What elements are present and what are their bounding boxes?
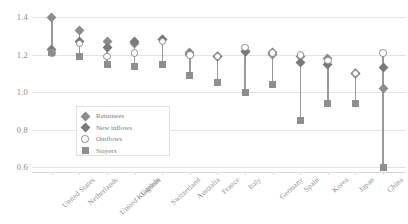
data-point-open-circle [214, 53, 222, 61]
legend-label: Returnees [96, 112, 124, 120]
x-tick-mark [273, 172, 274, 175]
data-point-square [269, 81, 276, 88]
x-label-canada: Canada [139, 176, 162, 197]
x-tick-mark [217, 172, 218, 175]
legend-label: Stayers [96, 147, 117, 155]
legend-marker-square-icon [82, 146, 96, 156]
data-point-square [242, 89, 249, 96]
y-tick-label: 0.8 [2, 126, 28, 135]
data-point-open-circle [324, 57, 332, 65]
gridline [32, 92, 406, 93]
data-point-open-circle [103, 53, 111, 61]
x-tick-mark [383, 172, 384, 175]
data-point-open-circle [241, 44, 249, 52]
x-label-france: France [221, 176, 242, 196]
data-point-square [48, 49, 55, 56]
x-tick-mark [190, 172, 191, 175]
gridline [32, 17, 406, 18]
data-point-open-circle [269, 49, 277, 57]
data-point-open-circle [76, 40, 84, 48]
data-point-open-circle [186, 51, 194, 59]
legend-label: Outflows [96, 135, 122, 143]
data-point-open-circle [379, 49, 387, 57]
legend: ReturneesNew inflowsOutflowsStayers [76, 106, 170, 156]
data-point-square [352, 100, 359, 107]
legend-item: Outflows [82, 134, 164, 144]
legend-marker-diamond-icon [82, 111, 96, 121]
y-tick-label: 1.4 [2, 13, 28, 22]
data-point-diamond [75, 26, 85, 36]
x-tick-mark [79, 172, 80, 175]
data-point-diamond-filled [378, 63, 388, 73]
gridline [32, 167, 406, 168]
data-point-square [324, 100, 331, 107]
x-tick-mark [355, 172, 356, 175]
data-point-diamond [47, 12, 57, 22]
x-tick-mark [135, 172, 136, 175]
legend-item: Stayers [82, 146, 164, 156]
x-label-italy: Italy [247, 176, 263, 191]
data-point-square [297, 117, 304, 124]
x-tick-mark [52, 172, 53, 175]
legend-item: Returnees [82, 111, 164, 121]
data-point-square [380, 164, 387, 171]
data-point-square [104, 61, 111, 68]
y-tick-label: 1.0 [2, 88, 28, 97]
legend-marker-diamond-filled-icon [82, 123, 96, 133]
data-point-square [76, 53, 83, 60]
data-point-square [131, 63, 138, 70]
data-point-square [186, 72, 193, 79]
legend-marker-open-circle-icon [82, 134, 96, 144]
x-tick-mark [107, 172, 108, 175]
scatter-chart: 1.41.21.00.80.6 United StatesNetherlands… [0, 0, 408, 224]
x-label-china: China [386, 176, 405, 194]
x-tick-mark [162, 172, 163, 175]
x-axis-line [32, 172, 406, 173]
data-point-open-circle [159, 38, 167, 46]
y-tick-label: 1.2 [2, 51, 28, 60]
x-label-korea: Korea [331, 176, 350, 195]
legend-item: New inflows [82, 123, 164, 133]
legend-label: New inflows [96, 124, 132, 132]
data-point-open-circle [352, 70, 360, 78]
data-point-open-circle [297, 51, 305, 59]
data-point-diamond-filled [102, 42, 112, 52]
data-point-square [214, 79, 221, 86]
data-point-open-circle [131, 49, 139, 57]
x-label-japan: Japan [358, 176, 376, 194]
data-point-diamond-filled [295, 57, 305, 67]
x-tick-mark [245, 172, 246, 175]
x-label-spain: Spain [303, 176, 321, 194]
data-point-square [159, 61, 166, 68]
y-tick-label: 0.6 [2, 163, 28, 172]
x-tick-mark [300, 172, 301, 175]
x-label-germany: Germany [278, 176, 305, 201]
x-tick-mark [328, 172, 329, 175]
